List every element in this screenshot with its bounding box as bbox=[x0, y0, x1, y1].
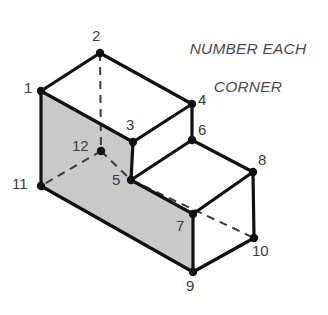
edge-8-10 bbox=[253, 172, 254, 238]
instruction-title: NUMBER EACH CORNER bbox=[172, 20, 324, 115]
vertex-dot-9 bbox=[189, 268, 197, 276]
vertex-label-5: 5 bbox=[112, 172, 120, 187]
instruction-title-line-2: CORNER bbox=[172, 77, 324, 96]
vertex-label-2: 2 bbox=[92, 28, 100, 43]
vertex-dot-2 bbox=[96, 49, 104, 57]
vertex-label-8: 8 bbox=[258, 152, 266, 167]
figure-canvas: NUMBER EACH CORNER 123456789101112 bbox=[0, 0, 328, 315]
vertex-dot-12 bbox=[97, 147, 105, 155]
vertex-label-9: 9 bbox=[186, 278, 194, 293]
vertex-dot-6 bbox=[188, 136, 196, 144]
vertex-dot-1 bbox=[37, 87, 45, 95]
edge-3-5 bbox=[131, 142, 133, 180]
vertex-dot-3 bbox=[129, 138, 137, 146]
vertex-dot-11 bbox=[37, 182, 45, 190]
vertex-dot-7 bbox=[189, 210, 197, 218]
vertex-label-11: 11 bbox=[12, 176, 28, 191]
vertex-label-12: 12 bbox=[72, 138, 89, 153]
vertex-label-7: 7 bbox=[176, 218, 184, 233]
vertex-label-1: 1 bbox=[24, 80, 32, 95]
vertex-label-3: 3 bbox=[126, 117, 134, 132]
vertex-label-6: 6 bbox=[198, 122, 206, 137]
vertex-label-4: 4 bbox=[198, 92, 206, 107]
vertex-dot-8 bbox=[249, 168, 257, 176]
vertex-dot-5 bbox=[127, 176, 135, 184]
vertex-label-10: 10 bbox=[252, 243, 269, 258]
instruction-title-line-1: NUMBER EACH bbox=[172, 39, 324, 58]
vertex-dot-10 bbox=[250, 234, 258, 242]
